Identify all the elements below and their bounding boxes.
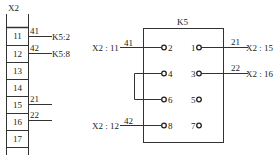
terminal-14: 14 xyxy=(7,80,28,96)
terminal-15: 15 xyxy=(7,97,28,113)
wiring-diagram xyxy=(0,0,277,155)
pin-label: 3 xyxy=(191,69,196,79)
connection-source: X2 : 12 xyxy=(92,121,119,131)
wire-label: 42 xyxy=(124,116,133,126)
wire-label: 42 xyxy=(30,43,39,53)
terminal-13: 13 xyxy=(7,63,28,79)
wire-label: 41 xyxy=(124,38,133,48)
connection-destination: X2 : 16 xyxy=(246,69,273,79)
pin-label: 8 xyxy=(168,121,173,131)
wire-label: 22 xyxy=(231,63,240,73)
terminal-12: 12 xyxy=(7,46,28,62)
wire-label: 21 xyxy=(30,94,39,104)
pin-label: 4 xyxy=(168,69,173,79)
wire-destination: K5:8 xyxy=(52,49,70,59)
terminal-17: 17 xyxy=(7,131,28,147)
wire-label: 41 xyxy=(30,26,39,36)
terminal-16: 16 xyxy=(7,114,28,130)
connection-destination: X2 : 15 xyxy=(246,43,273,53)
wire-label: 22 xyxy=(30,110,39,120)
pin-label: 6 xyxy=(168,95,173,105)
terminal-block-title: X2 xyxy=(8,3,19,13)
terminal-11: 11 xyxy=(7,28,28,44)
pin-label: 1 xyxy=(191,43,196,53)
connection-source: X2 : 11 xyxy=(92,43,119,53)
pin-label: 2 xyxy=(168,43,173,53)
pin-label: 5 xyxy=(191,95,196,105)
wire-destination: K5:2 xyxy=(52,32,70,42)
relay-title: K5 xyxy=(177,17,188,27)
wire-label: 21 xyxy=(231,37,240,47)
pin-label: 7 xyxy=(191,121,196,131)
